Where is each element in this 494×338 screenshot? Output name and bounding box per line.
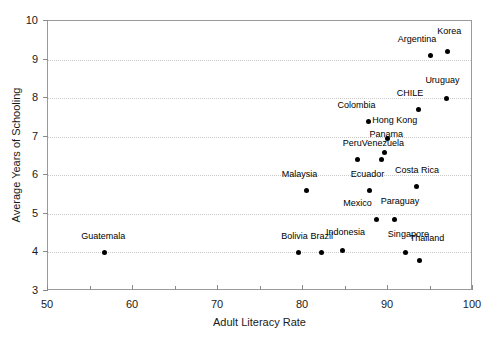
x-tick-minor [260, 286, 261, 290]
y-tick-major [43, 174, 48, 175]
gridline [48, 175, 471, 176]
x-tick-minor [175, 286, 176, 290]
data-point-label: Guatemala [81, 231, 125, 241]
data-point-label: Paraguay [381, 196, 420, 206]
y-axis-title: Average Years of Schooling [10, 20, 22, 290]
x-tick-minor [430, 286, 431, 290]
data-point [379, 157, 384, 162]
x-axis-title: Adult Literacy Rate [47, 316, 472, 328]
data-point [367, 188, 372, 193]
y-tick-major [43, 290, 48, 291]
gridline [48, 98, 471, 99]
y-tick-major [43, 251, 48, 252]
x-tick-major [472, 285, 473, 290]
data-point-label: Peru [343, 138, 362, 148]
data-point-label: Costa Rica [395, 165, 439, 175]
data-point [102, 250, 107, 255]
data-point [403, 250, 408, 255]
y-tick-major [43, 136, 48, 137]
data-point [374, 217, 379, 222]
scatter-chart: GuatemalaMalaysiaBoliviaBrazilIndonesiaP… [0, 0, 494, 338]
gridline [48, 137, 471, 138]
x-tick-major [302, 285, 303, 290]
data-point-label: Colombia [338, 100, 376, 110]
y-tick-major [43, 20, 48, 21]
x-tick-major [132, 285, 133, 290]
data-point [366, 119, 371, 124]
x-tick-label: 100 [463, 298, 481, 310]
x-tick-minor [345, 286, 346, 290]
x-tick-label: 90 [381, 298, 393, 310]
data-point [304, 188, 309, 193]
data-point-label: Venezuela [362, 138, 404, 148]
x-tick-label: 60 [126, 298, 138, 310]
data-point-label: CHILE [397, 88, 424, 98]
data-point [428, 53, 433, 58]
y-tick-major [43, 213, 48, 214]
data-point [296, 250, 301, 255]
data-point [417, 258, 422, 263]
data-point-label: Malaysia [282, 169, 318, 179]
data-point [382, 150, 387, 155]
data-point [355, 157, 360, 162]
data-point [416, 107, 421, 112]
data-point-label: Mexico [343, 198, 372, 208]
data-point-label: Korea [437, 26, 461, 36]
x-tick-label: 80 [296, 298, 308, 310]
data-point [319, 250, 324, 255]
y-tick-major [43, 97, 48, 98]
data-point [414, 184, 419, 189]
data-point-label: Bolivia [281, 231, 308, 241]
data-point-label: Hong Kong [372, 115, 417, 125]
gridline [48, 214, 471, 215]
plot-area: GuatemalaMalaysiaBoliviaBrazilIndonesiaP… [47, 20, 472, 290]
x-tick-minor [90, 286, 91, 290]
data-point-label: Ecuador [351, 169, 385, 179]
data-point [392, 217, 397, 222]
gridline [48, 60, 471, 61]
x-tick-label: 50 [41, 298, 53, 310]
data-point-label: Indonesia [326, 227, 365, 237]
data-point-label: Uruguay [425, 75, 459, 85]
data-point-label: Panama [370, 129, 404, 139]
data-point-label: Argentina [398, 34, 437, 44]
x-tick-major [217, 285, 218, 290]
x-tick-label: 70 [211, 298, 223, 310]
data-point-label: Thailand [410, 233, 445, 243]
y-tick-major [43, 59, 48, 60]
data-point [340, 248, 345, 253]
data-point [444, 96, 449, 101]
data-point [445, 49, 450, 54]
x-tick-major [387, 285, 388, 290]
